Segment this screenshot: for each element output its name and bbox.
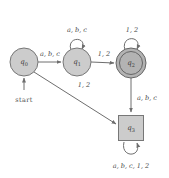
state-node-q0[interactable]: q0 — [10, 48, 38, 76]
edge-label-q2-self: 1, 2 — [126, 26, 138, 34]
automaton-diagram: start a, b, c a, b, c 1, 2 1, 2 1, 2 a — [0, 0, 169, 178]
edge-label-q1-q2: 1, 2 — [98, 50, 110, 58]
edge-label-q2-q3: a, b, c — [137, 94, 157, 102]
state-node-q2[interactable]: q2 — [116, 48, 146, 78]
edge-label-q0-q1: a, b, c — [40, 50, 60, 58]
edge-q0-q3 — [34, 72, 116, 124]
state-node-q1[interactable]: q1 — [63, 48, 91, 76]
edge-label-q3-self: a, b, c, 1, 2 — [113, 162, 149, 170]
state-diagram-canvas: start a, b, c a, b, c 1, 2 1, 2 1, 2 a — [0, 0, 169, 178]
edge-q1-q2 — [91, 62, 114, 63]
edge-label-q1-self: a, b, c — [67, 26, 87, 34]
edge-label-q0-q3: 1, 2 — [78, 81, 90, 89]
state-node-q3[interactable]: q3 — [119, 116, 144, 141]
edge-q3-self — [124, 142, 138, 154]
start-label: start — [15, 96, 33, 104]
